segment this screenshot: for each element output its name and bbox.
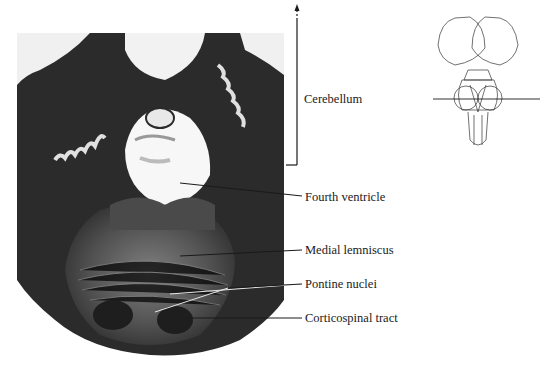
brainstem-inset-icon [438,17,518,145]
label-cerebellum: Cerebellum [304,92,362,106]
brainstem-section-image [0,0,547,365]
label-fourth-ventricle: Fourth ventricle [305,190,385,204]
label-medial-lemniscus: Medial lemniscus [305,243,394,257]
label-corticospinal-tract: Corticospinal tract [305,311,398,325]
label-pontine-nuclei: Pontine nuclei [305,277,377,291]
